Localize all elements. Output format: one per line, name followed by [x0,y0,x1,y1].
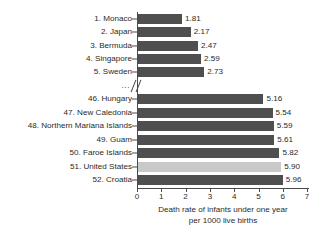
bar-value-label: 2.73 [204,68,223,76]
bar-value-label: 1.81 [182,15,201,23]
bar-category-label: 47. New Caledonia [64,109,132,117]
bar-category-label: 50. Faroe Islands [69,149,132,157]
bar-row: 52. Croatia5.96 [0,173,322,186]
bar-value-label: 5.54 [273,109,292,117]
infant-mortality-bar-chart: 1. Monaco1.812. Japan2.173. Bermuda2.474… [0,0,322,229]
bar[interactable] [138,108,273,118]
bar-row: 46. Hungary5.16 [0,93,322,106]
bar-value-label: 2.17 [191,28,210,36]
bar-value-label: 5.96 [283,176,302,184]
axis-break-ellipsis: ... [121,82,130,90]
bar-value-label: 2.59 [201,55,220,63]
bar-category-label: 46. Hungary [88,95,132,103]
bar-category-label: 52. Croatia [92,176,132,184]
bar-row: 3. Bermuda2.47 [0,39,322,52]
bar-value-label: 5.61 [274,136,293,144]
bar-value-label: 5.82 [279,149,298,157]
bar-row: 4. Singapore2.59 [0,52,322,65]
bar-category-label: 2. Japan [101,28,132,36]
bar-highlighted[interactable] [138,162,281,172]
bar-row: 47. New Caledonia5.54 [0,106,322,119]
bar-value-label: 5.90 [281,163,300,171]
bar-row: 2. Japan2.17 [0,25,322,38]
x-axis-tick-label: 6 [281,193,286,201]
bar-row: 1. Monaco1.81 [0,12,322,25]
x-axis-tick-label: 5 [256,193,261,201]
bar[interactable] [138,27,191,37]
x-axis-label-line1: Death rate of infants under one year [158,205,288,214]
bar[interactable] [138,67,204,77]
x-axis-tick-label: 1 [159,193,164,201]
bar-category-label: 51. United States [70,163,132,171]
x-axis-label-line2: per 1000 live births [137,215,309,226]
x-axis-tick-label: 0 [135,193,140,201]
bar-value-label: 5.16 [263,95,282,103]
x-axis-tick-label: 2 [183,193,188,201]
bar-value-label: 5.59 [274,122,293,130]
bar-category-label: 4. Singapore [86,55,132,63]
bar[interactable] [138,41,198,51]
bar-category-label: 3. Bermuda [90,42,132,50]
x-axis-ticks: 01234567 [0,188,322,204]
bar-value-label: 2.47 [198,42,217,50]
bar-category-label: 48. Northern Mariana Islands [28,122,132,130]
bar[interactable] [138,14,182,24]
y-axis-line [137,12,138,189]
bar-row: 50. Faroe Islands5.82 [0,147,322,160]
bar[interactable] [138,135,274,145]
bar-row: 51. United States5.90 [0,160,322,173]
bar[interactable] [138,121,274,131]
bar-category-label: 5. Sweden [94,68,132,76]
bar-rows: 1. Monaco1.812. Japan2.173. Bermuda2.474… [0,12,322,188]
x-axis-tick-label: 3 [208,193,213,201]
x-axis-label: Death rate of infants under one year per… [137,204,309,226]
bar[interactable] [138,54,201,64]
bar-row: 48. Northern Mariana Islands5.59 [0,120,322,133]
x-axis-tick-label: 4 [232,193,237,201]
bar[interactable] [138,175,283,185]
bar[interactable] [138,148,279,158]
bar-category-label: 1. Monaco [94,15,132,23]
x-axis-tick-label: 7 [305,193,310,201]
bar-row: 49. Guam5.61 [0,133,322,146]
bar[interactable] [138,94,263,104]
bar-row: 5. Sweden2.73 [0,66,322,79]
axis-break-row: ... [0,79,322,92]
bar-category-label: 49. Guam [96,136,132,144]
